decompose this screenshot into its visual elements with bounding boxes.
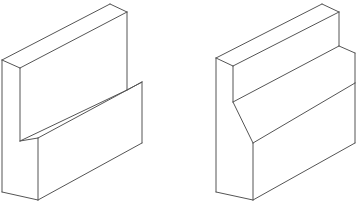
stepped-block-square-notch-tall-back-wall-left-face (2, 60, 20, 141)
figures-group (2, 4, 355, 200)
stepped-block-chamfered-notch (216, 4, 355, 200)
stepped-block-square-notch (2, 4, 142, 200)
isometric-drawing-svg (0, 0, 361, 207)
drawing-canvas (0, 0, 361, 207)
stepped-block-square-notch-base-left-face (2, 133, 38, 200)
